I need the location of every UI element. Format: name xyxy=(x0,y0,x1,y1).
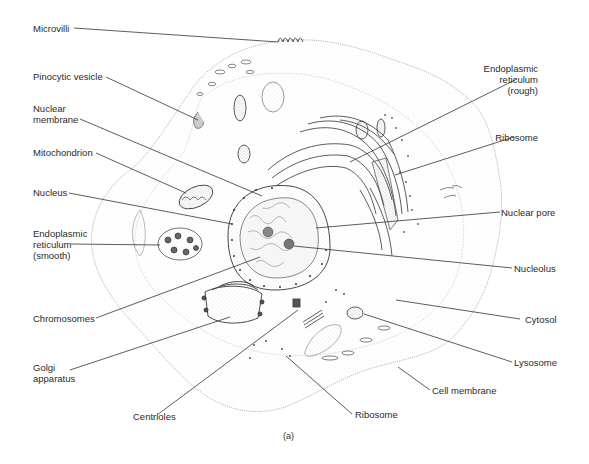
label-ribosome-top: Ribosome xyxy=(495,132,538,143)
label-chromosomes: Chromosomes xyxy=(33,313,95,324)
label-er-rough: Endoplasmic reticulum (rough) xyxy=(484,63,538,96)
label-nucleus: Nucleus xyxy=(33,187,67,198)
vacuole-top xyxy=(262,82,284,112)
label-nuclear-pore: Nuclear pore xyxy=(501,207,555,218)
lysosome-shape xyxy=(347,307,363,319)
label-ribosome-bottom: Ribosome xyxy=(355,409,398,420)
label-er-smooth: Endoplasmic reticulum (smooth) xyxy=(33,228,87,261)
label-cytosol: Cytosol xyxy=(525,314,557,325)
label-golgi-apparatus: Golgi apparatus xyxy=(33,362,75,384)
label-nuclear-membrane: Nuclear membrane xyxy=(33,103,78,125)
nucleolus-shape xyxy=(284,239,294,249)
label-pinocytic-vesicle: Pinocytic vesicle xyxy=(33,71,103,82)
cell-diagram: Microvilli Pinocytic vesicle Nuclear mem… xyxy=(0,0,589,464)
nucleus-shape xyxy=(228,185,330,290)
label-cell-membrane: Cell membrane xyxy=(432,385,496,396)
label-mitochondrion: Mitochondrion xyxy=(33,147,93,158)
label-centrioles: Centrioles xyxy=(133,411,176,422)
chromatin-blob xyxy=(263,227,273,237)
label-microvilli: Microvilli xyxy=(33,23,69,34)
label-nucleolus: Nucleolus xyxy=(514,263,556,274)
figure-caption: (a) xyxy=(283,431,294,441)
label-lysosome: Lysosome xyxy=(514,357,557,368)
